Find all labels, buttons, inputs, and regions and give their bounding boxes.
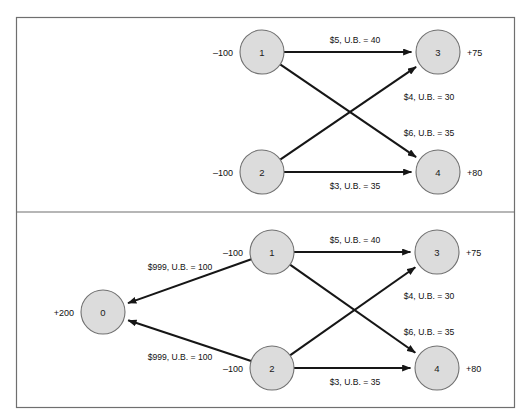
node-label-0: 0 — [100, 307, 105, 318]
node-label-3: 3 — [434, 247, 439, 258]
diagram-canvas: $5, U.B. = 40$4, U.B. = 30$6, U.B. = 35$… — [0, 0, 532, 420]
supply-label-node-4: +80 — [467, 168, 482, 178]
edge-label-1-0: $999, U.B. = 100 — [148, 262, 213, 272]
edge-label-1-4: $6, U.B. = 35 — [404, 327, 455, 337]
edge-label-1-3: $5, U.B. = 40 — [330, 235, 381, 245]
edge-label-2-0: $999, U.B. = 100 — [148, 352, 213, 362]
node-label-3: 3 — [435, 47, 440, 58]
network-flow-figure: $5, U.B. = 40$4, U.B. = 30$6, U.B. = 35$… — [0, 0, 532, 420]
edge-label-1-4: $6, U.B. = 35 — [404, 128, 455, 138]
edge-label-2-4: $3, U.B. = 35 — [330, 377, 381, 387]
supply-label-node-4: +80 — [466, 364, 481, 374]
node-label-4: 4 — [434, 363, 439, 374]
node-label-1: 1 — [269, 247, 274, 258]
edge-label-2-3: $4, U.B. = 30 — [404, 291, 455, 301]
supply-label-node-1: –100 — [223, 248, 243, 258]
edge-label-2-3: $4, U.B. = 30 — [404, 92, 455, 102]
node-label-4: 4 — [435, 167, 440, 178]
edge-label-2-4: $3, U.B. = 35 — [330, 181, 381, 191]
edge-label-1-3: $5, U.B. = 40 — [330, 35, 381, 45]
supply-label-node-0: +200 — [54, 308, 74, 318]
supply-label-node-3: +75 — [467, 48, 482, 58]
node-label-2: 2 — [269, 363, 274, 374]
supply-label-node-2: –100 — [223, 364, 243, 374]
supply-label-node-3: +75 — [466, 248, 481, 258]
node-label-1: 1 — [259, 47, 264, 58]
supply-label-node-1: –100 — [213, 48, 233, 58]
supply-label-node-2: –100 — [213, 168, 233, 178]
node-label-2: 2 — [259, 167, 264, 178]
